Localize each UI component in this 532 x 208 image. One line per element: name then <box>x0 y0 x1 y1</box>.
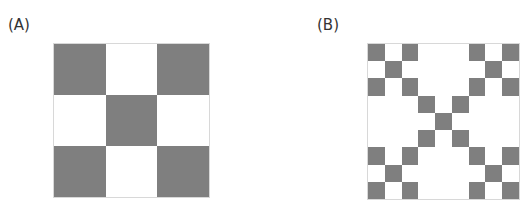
subcell-2-1 <box>385 78 402 95</box>
subcell-0-2 <box>402 147 419 164</box>
subcell-2-1 <box>485 182 502 199</box>
subcell-1-1 <box>435 113 452 130</box>
subcell-0-2 <box>502 147 519 164</box>
panel-a-checkerboard <box>53 43 210 198</box>
subcell-0-0 <box>368 44 385 61</box>
cell-1-0 <box>54 95 106 146</box>
subcell-2-0 <box>368 78 385 95</box>
subcell-0-1 <box>385 147 402 164</box>
subcell-0-1 <box>385 44 402 61</box>
subcell-2-0 <box>469 78 486 95</box>
subcell-1-1 <box>385 165 402 182</box>
block-1-2 <box>469 96 519 148</box>
panel-b-label: (B) <box>317 18 339 33</box>
subcell-2-2 <box>502 78 519 95</box>
subcell-2-0 <box>418 130 435 147</box>
subcell-2-1 <box>485 78 502 95</box>
subcell-1-1 <box>485 165 502 182</box>
subcell-1-2 <box>502 165 519 182</box>
subcell-1-1 <box>485 61 502 78</box>
block-0-1 <box>418 44 468 96</box>
subcell-0-2 <box>452 96 469 113</box>
block-2-2 <box>469 147 519 199</box>
subcell-0-1 <box>485 44 502 61</box>
cell-1-1 <box>106 95 158 146</box>
subcell-0-2 <box>402 44 419 61</box>
subcell-0-0 <box>418 96 435 113</box>
subcell-1-2 <box>402 61 419 78</box>
subcell-2-2 <box>402 78 419 95</box>
subcell-2-1 <box>435 130 452 147</box>
subcell-0-0 <box>469 147 486 164</box>
panel-a-label: (A) <box>8 18 30 33</box>
block-0-0 <box>368 44 418 96</box>
subcell-1-1 <box>385 61 402 78</box>
block-0-2 <box>469 44 519 96</box>
cell-0-2 <box>157 44 209 95</box>
subcell-0-2 <box>502 44 519 61</box>
subcell-0-1 <box>485 147 502 164</box>
subcell-1-0 <box>418 113 435 130</box>
subcell-0-0 <box>469 44 486 61</box>
subcell-1-0 <box>469 61 486 78</box>
subcell-1-0 <box>368 165 385 182</box>
subcell-2-2 <box>402 182 419 199</box>
panel-b-fractal-checkerboard <box>367 43 520 200</box>
subcell-1-2 <box>402 165 419 182</box>
subcell-2-2 <box>452 130 469 147</box>
block-2-0 <box>368 147 418 199</box>
subcell-2-2 <box>502 182 519 199</box>
cell-0-0 <box>54 44 106 95</box>
cell-2-1 <box>106 146 158 197</box>
cell-0-1 <box>106 44 158 95</box>
subcell-0-0 <box>368 147 385 164</box>
cell-1-2 <box>157 95 209 146</box>
subcell-2-1 <box>385 182 402 199</box>
subcell-1-0 <box>469 165 486 182</box>
subcell-0-1 <box>435 96 452 113</box>
subcell-2-0 <box>469 182 486 199</box>
subcell-1-2 <box>502 61 519 78</box>
cell-2-0 <box>54 146 106 197</box>
subcell-1-0 <box>368 61 385 78</box>
cell-2-2 <box>157 146 209 197</box>
subcell-2-0 <box>368 182 385 199</box>
subcell-1-2 <box>452 113 469 130</box>
block-1-0 <box>368 96 418 148</box>
block-1-1 <box>418 96 468 148</box>
block-2-1 <box>418 147 468 199</box>
